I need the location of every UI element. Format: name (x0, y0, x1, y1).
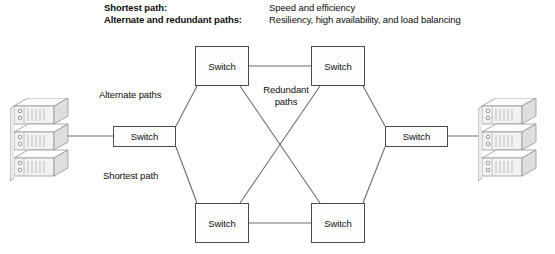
link-switchleft-bottomleft (176, 147, 197, 203)
link-bottomright-switchright (363, 147, 385, 203)
link-topright-switchright (363, 86, 385, 126)
connection-lines-layer (0, 0, 555, 254)
server-stack-right-icon (478, 98, 540, 182)
switch-label: Switch (131, 131, 158, 142)
server-unit-2 (14, 124, 68, 150)
server-unit-2 (482, 124, 536, 150)
server-unit-3 (482, 150, 536, 176)
label-alternate-paths: Alternate paths (99, 89, 161, 101)
switch-bottom-right[interactable]: Switch (311, 203, 365, 243)
switch-label: Switch (208, 218, 235, 229)
switch-left-edge[interactable]: Switch (113, 126, 176, 147)
switch-label: Switch (324, 61, 351, 72)
switch-bottom-left[interactable]: Switch (195, 203, 249, 243)
switch-label: Switch (208, 61, 235, 72)
switch-top-left[interactable]: Switch (195, 46, 249, 86)
server-stack-left-icon (10, 98, 72, 182)
switch-label: Switch (324, 218, 351, 229)
network-topology-diagram: Shortest path: Speed and efficiency Alte… (0, 0, 555, 254)
server-unit-1 (482, 98, 536, 124)
switch-right-edge[interactable]: Switch (385, 126, 448, 147)
switch-top-right[interactable]: Switch (311, 46, 365, 86)
link-switchleft-topleft (176, 86, 197, 126)
switch-label: Switch (403, 131, 430, 142)
server-unit-1 (14, 98, 68, 124)
server-unit-3 (14, 150, 68, 176)
label-redundant-paths: Redundant paths (252, 84, 320, 108)
label-shortest-path: Shortest path (103, 170, 158, 182)
